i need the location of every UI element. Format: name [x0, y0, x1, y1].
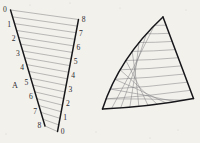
arm-tick-label: 1: [7, 20, 11, 29]
scan-speck: [186, 10, 187, 11]
point-marker-a: A: [12, 81, 18, 90]
arm-tick-label: 0: [61, 127, 65, 136]
figure-page: 012345678 876543210 A: [0, 0, 200, 143]
arm-tick-label: 7: [79, 29, 83, 38]
scan-speck: [96, 132, 97, 133]
scan-speck: [6, 134, 7, 135]
arm-tick-label: 5: [74, 57, 78, 66]
arm-tick-label: 7: [33, 107, 37, 116]
arm-tick-label: 2: [66, 99, 70, 108]
scan-speck: [30, 5, 31, 6]
arm-tick-label: 0: [3, 5, 7, 14]
scan-speck: [178, 130, 179, 131]
arm-tick-label: 5: [25, 78, 29, 87]
arm-tick-label: 6: [29, 92, 33, 101]
figure-canvas: 012345678 876543210 A: [0, 0, 200, 143]
arm-tick-label: 3: [16, 49, 20, 58]
arm-tick-label: 2: [12, 34, 16, 43]
arm-tick-label: 8: [82, 15, 86, 24]
scan-speck: [120, 8, 121, 9]
scan-speck: [70, 3, 71, 4]
arm-tick-label: 6: [76, 43, 80, 52]
arm-tick-label: 4: [71, 71, 75, 80]
arm-tick-label: 4: [20, 63, 24, 72]
arm-tick-label: 1: [63, 113, 67, 122]
scan-speck: [150, 138, 151, 139]
arm-tick-label: 8: [38, 121, 42, 130]
arm-tick-label: 3: [69, 85, 73, 94]
